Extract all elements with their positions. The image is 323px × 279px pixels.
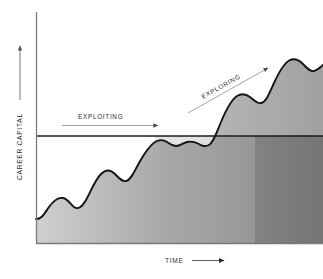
exploiting-label: EXPLOITING xyxy=(78,113,123,120)
career-capital-chart-figure: CAREER CAPITAL TIME EXPLOITING EXPLORING xyxy=(0,0,323,279)
upper-band-fill xyxy=(155,59,323,146)
dark-right-block xyxy=(255,136,323,243)
y-axis-label: CAREER CAPITAL xyxy=(16,113,23,180)
plot-fill-group xyxy=(36,59,323,243)
chart-svg: CAREER CAPITAL TIME EXPLOITING EXPLORING xyxy=(0,0,323,279)
x-axis-label: TIME xyxy=(165,257,184,264)
